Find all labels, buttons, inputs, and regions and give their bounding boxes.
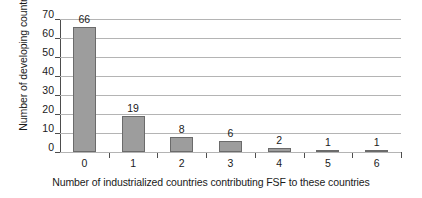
x-axis-tick-label: 5	[308, 158, 348, 169]
bar	[170, 137, 193, 152]
x-axis-tick-label: 4	[259, 158, 299, 169]
y-axis-tick-mark	[55, 95, 60, 96]
gridline	[60, 114, 401, 115]
y-axis-tick-label: 60	[30, 28, 54, 38]
gridline	[60, 152, 401, 153]
y-axis-title: Number of developing countries	[17, 0, 29, 133]
bar	[122, 116, 145, 152]
x-axis-tick-mark	[206, 153, 207, 158]
x-axis-tick-label: 1	[113, 158, 153, 169]
y-axis-tick-mark	[55, 76, 60, 77]
bar-value-label: 66	[64, 14, 104, 25]
y-axis-tick-label: 30	[30, 85, 54, 95]
y-axis-tick-mark	[55, 38, 60, 39]
bar-value-label: 6	[211, 128, 251, 139]
x-axis-tick-label: 6	[357, 158, 397, 169]
bar	[316, 150, 339, 153]
x-axis-tick-mark	[109, 153, 110, 158]
bar	[73, 27, 96, 152]
y-axis-tick-mark	[55, 114, 60, 115]
y-axis-tick-label: 40	[30, 66, 54, 76]
gridline	[60, 38, 401, 39]
y-axis-tick-label: 50	[30, 47, 54, 57]
gridline	[60, 95, 401, 96]
gridline	[60, 76, 401, 77]
y-axis-tick-label: 10	[30, 123, 54, 133]
y-axis-tick-mark	[55, 133, 60, 134]
x-axis-tick-mark	[401, 153, 402, 158]
x-axis-tick-mark	[255, 153, 256, 158]
bar-value-label: 8	[162, 124, 202, 135]
y-axis-tick-label: 20	[30, 104, 54, 114]
y-axis-tick-label: 0	[30, 142, 54, 152]
x-axis-tick-mark	[157, 153, 158, 158]
y-axis-tick-label: 70	[30, 9, 54, 19]
bar	[365, 150, 388, 153]
y-axis-tick-mark	[55, 152, 60, 153]
bar	[219, 141, 242, 152]
x-axis-tick-label: 0	[64, 158, 104, 169]
gridline	[60, 19, 401, 20]
x-axis-tick-label: 2	[162, 158, 202, 169]
bar-chart: Number of developing countries 010203040…	[0, 0, 422, 198]
x-axis-title: Number of industrialized countries contr…	[0, 176, 422, 188]
bar-value-label: 1	[357, 137, 397, 148]
bar	[268, 148, 291, 152]
bar-value-label: 19	[113, 103, 153, 114]
x-axis-tick-label: 3	[211, 158, 251, 169]
y-axis-tick-labels: 010203040506070	[30, 14, 54, 152]
x-axis-tick-mark	[304, 153, 305, 158]
x-axis-tick-mark	[352, 153, 353, 158]
bar-value-label: 1	[308, 137, 348, 148]
y-axis-tick-mark	[55, 57, 60, 58]
y-axis-tick-mark	[55, 19, 60, 20]
bar-value-label: 2	[259, 135, 299, 146]
gridline	[60, 57, 401, 58]
